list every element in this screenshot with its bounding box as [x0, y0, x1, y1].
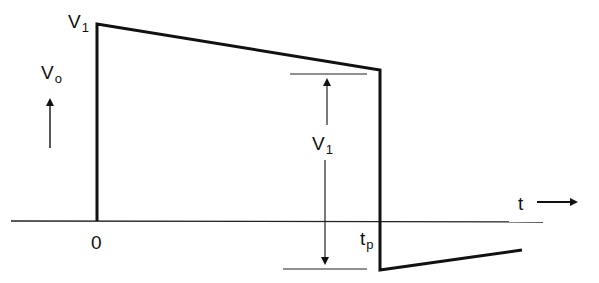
amplitude-label-sub: 1 — [326, 142, 333, 157]
amplitude-label: V1 — [312, 134, 333, 153]
origin-label: 0 — [91, 233, 102, 252]
peak-label: V1 — [68, 12, 89, 31]
pulse-waveform-diagram: V1 Vo V1 t 0 tp — [0, 0, 599, 283]
pulse-end-label-sub: p — [366, 237, 373, 252]
y-axis-label: Vo — [41, 63, 62, 82]
y-axis-label-sub: o — [55, 71, 62, 86]
pulse-end-label: tp — [360, 229, 374, 248]
waveform-canvas — [0, 0, 599, 283]
pulse-waveform — [97, 24, 522, 270]
pulse-end-label-main: t — [360, 228, 365, 249]
amplitude-label-main: V — [312, 133, 325, 154]
peak-label-sub: 1 — [82, 20, 89, 35]
peak-label-main: V — [68, 11, 81, 32]
time-axis-label: t — [518, 194, 523, 213]
y-axis-label-main: V — [41, 62, 54, 83]
time-axis-line — [11, 221, 543, 222]
